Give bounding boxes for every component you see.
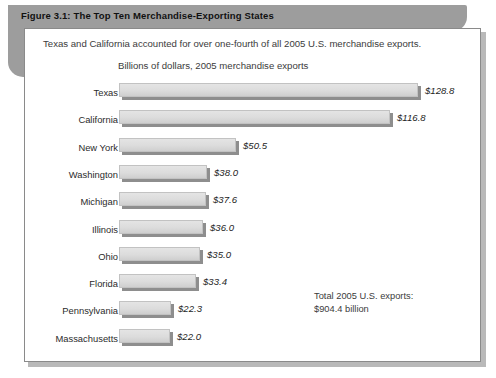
bar-chart: Texas$128.8California$116.8New York$50.5… bbox=[25, 81, 480, 357]
bar bbox=[119, 165, 207, 179]
bar-row: Massachusetts$22.0 bbox=[25, 327, 480, 354]
bar bbox=[119, 83, 418, 97]
total-exports-note-line1: Total 2005 U.S. exports: bbox=[314, 290, 413, 303]
figure-panel: Texas and California accounted for over … bbox=[24, 28, 481, 362]
bar-category-label: Ohio bbox=[98, 251, 118, 262]
figure-subtitle: Texas and California accounted for over … bbox=[43, 38, 421, 49]
bar bbox=[119, 110, 390, 124]
bar-row: New York$50.5 bbox=[25, 136, 480, 163]
bar-value-label: $116.8 bbox=[397, 112, 426, 123]
bar-wrapper bbox=[119, 138, 236, 155]
bar-row: Michigan$37.6 bbox=[25, 190, 480, 217]
bar-value-label: $37.6 bbox=[213, 194, 237, 205]
bar-value-label: $33.4 bbox=[203, 276, 227, 287]
bar-wrapper bbox=[119, 110, 390, 127]
bar-value-label: $38.0 bbox=[214, 167, 238, 178]
bar bbox=[119, 247, 200, 261]
bar-value-label: $50.5 bbox=[243, 140, 267, 151]
bar-wrapper bbox=[119, 329, 170, 346]
bar bbox=[119, 301, 171, 315]
bar-row: California$116.8 bbox=[25, 108, 480, 135]
bar bbox=[119, 329, 170, 343]
bar-wrapper bbox=[119, 247, 200, 264]
bar-row: Texas$128.8 bbox=[25, 81, 480, 108]
bar-category-label: Pennsylvania bbox=[62, 305, 118, 316]
bar-wrapper bbox=[119, 83, 418, 100]
bar-category-label: Illinois bbox=[92, 224, 118, 235]
bar-wrapper bbox=[119, 165, 207, 182]
bar-value-label: $22.3 bbox=[178, 303, 202, 314]
bar-value-label: $128.8 bbox=[425, 85, 454, 96]
total-exports-note-line2: $904.4 billion bbox=[314, 303, 413, 316]
bar-value-label: $22.0 bbox=[177, 331, 201, 342]
total-exports-note: Total 2005 U.S. exports: $904.4 billion bbox=[314, 290, 413, 315]
bar-wrapper bbox=[119, 274, 196, 291]
bar bbox=[119, 220, 203, 234]
bar bbox=[119, 138, 236, 152]
bar-row: Washington$38.0 bbox=[25, 163, 480, 190]
bar-category-label: California bbox=[78, 114, 118, 125]
bar-category-label: Texas bbox=[94, 87, 119, 98]
chart-axis-note: Billions of dollars, 2005 merchandise ex… bbox=[118, 60, 308, 71]
bar-category-label: Massachusetts bbox=[55, 333, 118, 344]
bar bbox=[119, 192, 206, 206]
bar-wrapper bbox=[119, 301, 171, 318]
bar-value-label: $36.0 bbox=[210, 222, 234, 233]
figure-container: Figure 3.1: The Top Ten Merchandise-Expo… bbox=[0, 0, 496, 378]
bar-category-label: Michigan bbox=[80, 196, 118, 207]
bar-row: Ohio$35.0 bbox=[25, 245, 480, 272]
bar-wrapper bbox=[119, 192, 206, 209]
bar-row: Illinois$36.0 bbox=[25, 218, 480, 245]
bar-category-label: Florida bbox=[89, 278, 118, 289]
bar-category-label: New York bbox=[78, 142, 118, 153]
bar-category-label: Washington bbox=[69, 169, 118, 180]
bar-wrapper bbox=[119, 220, 203, 237]
figure-title: Figure 3.1: The Top Ten Merchandise-Expo… bbox=[21, 10, 274, 21]
bar-value-label: $35.0 bbox=[207, 249, 231, 260]
bar bbox=[119, 274, 196, 288]
